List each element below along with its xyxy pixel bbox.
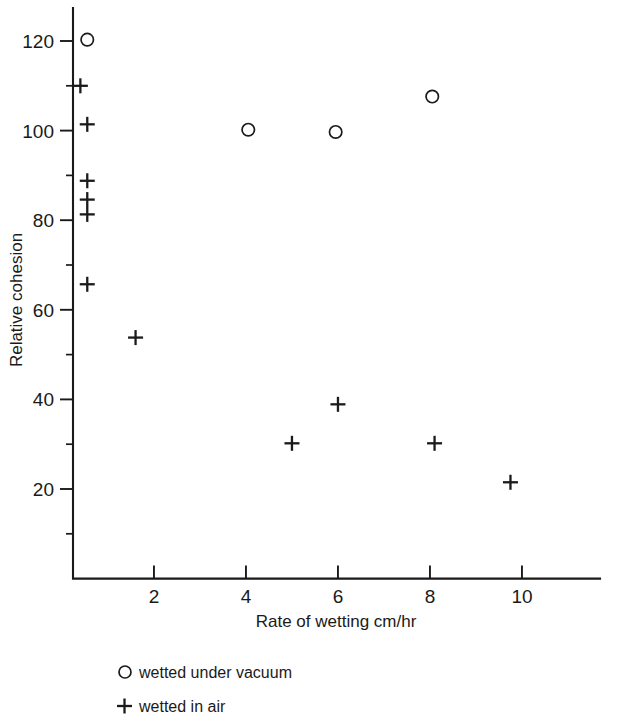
x-axis-title: Rate of wetting cm/hr — [256, 612, 417, 631]
scatter-chart-figure: 20406080100120 246810 Rate of wetting cm… — [0, 0, 618, 723]
axis-lines — [73, 8, 600, 579]
legend-circle-icon — [119, 666, 131, 678]
x-tick-label-2: 2 — [149, 586, 160, 607]
y-tick-label-20: 20 — [33, 479, 54, 500]
data-point-circle — [329, 126, 341, 138]
legend-label-vacuum: wetted under vacuum — [138, 664, 292, 681]
y-tick-label-120: 120 — [22, 31, 54, 52]
x-tick-label-8: 8 — [425, 586, 436, 607]
x-tick-label-10: 10 — [511, 586, 532, 607]
x-tick-label-4: 4 — [241, 586, 252, 607]
x-tick-label-6: 6 — [333, 586, 344, 607]
data-point-circle — [81, 33, 93, 45]
data-point-circle — [426, 90, 438, 102]
x-axis-ticks — [154, 566, 522, 579]
legend: wetted under vacuum wetted in air — [117, 664, 292, 715]
y-tick-label-40: 40 — [33, 389, 54, 410]
y-tick-label-100: 100 — [22, 121, 54, 142]
y-tick-label-80: 80 — [33, 210, 54, 231]
series-wetted-in-air — [73, 78, 518, 489]
y-tick-label-60: 60 — [33, 300, 54, 321]
series-wetted-under-vacuum — [81, 33, 438, 138]
y-axis-tick-labels: 20406080100120 — [22, 31, 54, 500]
axes — [73, 8, 600, 579]
data-point-circle — [242, 124, 254, 136]
chart-canvas: 20406080100120 246810 Rate of wetting cm… — [0, 0, 618, 723]
y-axis-title: Relative cohesion — [7, 233, 26, 367]
x-axis-tick-labels: 246810 — [149, 586, 533, 607]
legend-label-air: wetted in air — [138, 698, 226, 715]
